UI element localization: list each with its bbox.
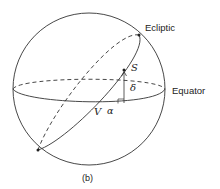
equator-back (13, 79, 165, 89)
right-ascension-label: α (107, 105, 114, 116)
ecliptic-front (38, 35, 140, 150)
ecliptic-node-top (138, 34, 141, 37)
celestial-sphere-diagram: Ecliptic Equator S δ V α (b) (0, 0, 220, 189)
star-label: S (131, 62, 138, 73)
sphere-outline (13, 13, 165, 165)
ecliptic-label: Ecliptic (145, 22, 175, 33)
declination-label: δ (130, 82, 136, 93)
equator-label: Equator (172, 85, 205, 96)
ecliptic-node-bottom (37, 149, 40, 152)
vernal-point-label: V (94, 106, 103, 117)
caption: (b) (82, 173, 93, 183)
equator-front (13, 89, 165, 102)
